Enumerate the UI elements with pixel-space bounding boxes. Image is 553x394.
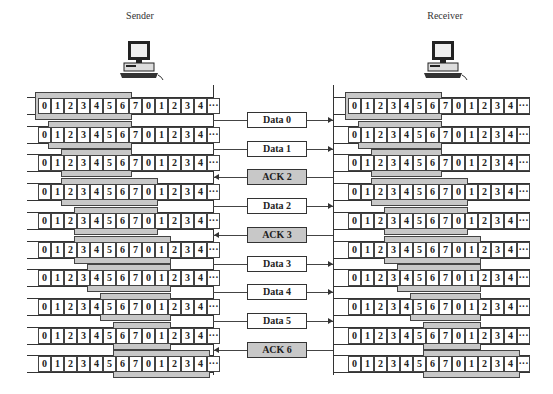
sequence-cell: 2 xyxy=(168,356,181,372)
arrow-right-icon xyxy=(328,146,333,152)
sequence-cell: ··· xyxy=(517,328,530,344)
sequence-cell: 3 xyxy=(491,213,504,229)
sequence-cell: 4 xyxy=(400,184,413,200)
arrow-right-icon xyxy=(328,261,333,267)
sequence-cell: 1 xyxy=(51,184,64,200)
sequence-cell: 0 xyxy=(142,299,155,315)
sequence-cell: 4 xyxy=(194,242,207,258)
sequence-cell: 1 xyxy=(361,299,374,315)
sequence-cell: 5 xyxy=(413,213,426,229)
sequence-cell: 5 xyxy=(103,98,116,114)
sequence-cell: 4 xyxy=(90,328,103,344)
sequence-cell: 1 xyxy=(465,356,478,372)
sequence-cell: 0 xyxy=(348,270,361,286)
sequence-cell: 2 xyxy=(64,356,77,372)
sequence-cell: 3 xyxy=(387,328,400,344)
sequence-cell: 3 xyxy=(387,184,400,200)
sequence-cell: 3 xyxy=(491,155,504,171)
sequence-cell: 6 xyxy=(426,127,439,143)
sequence-cell: 1 xyxy=(465,184,478,200)
sequence-cell: 3 xyxy=(77,184,90,200)
sequence-cell: 3 xyxy=(387,213,400,229)
sequence-cell: 6 xyxy=(116,184,129,200)
sequence-cell: 1 xyxy=(51,213,64,229)
sequence-cell: ··· xyxy=(517,270,530,286)
receiver-label: Receiver xyxy=(405,10,485,21)
sequence-cell: 3 xyxy=(77,98,90,114)
sequence-cell: 7 xyxy=(129,242,142,258)
sequence-cell: 5 xyxy=(103,155,116,171)
sequence-cell: ··· xyxy=(207,127,220,143)
sequence-cell: 7 xyxy=(439,299,452,315)
sequence-cell: ··· xyxy=(207,328,220,344)
sequence-cell: 3 xyxy=(77,328,90,344)
sequence-cell: 2 xyxy=(168,328,181,344)
sequence-cell: 3 xyxy=(181,127,194,143)
sequence-cell: 4 xyxy=(400,328,413,344)
sequence-cell: 0 xyxy=(452,184,465,200)
sequence-cell: 3 xyxy=(387,270,400,286)
sequence-cell: 2 xyxy=(168,127,181,143)
sequence-cell: 2 xyxy=(64,155,77,171)
sequence-cell: 1 xyxy=(51,299,64,315)
sequence-cell: 7 xyxy=(439,155,452,171)
sequence-cell: 0 xyxy=(348,299,361,315)
sequence-cell: 0 xyxy=(452,299,465,315)
sequence-cell: 4 xyxy=(504,127,517,143)
sequence-cell: ··· xyxy=(517,184,530,200)
sequence-cell: 0 xyxy=(38,213,51,229)
sequence-cell: 1 xyxy=(361,242,374,258)
sequence-cell: 0 xyxy=(38,328,51,344)
sequence-cell: 4 xyxy=(504,299,517,315)
sequence-cell: 1 xyxy=(465,242,478,258)
data-frame: Data 1 xyxy=(247,141,307,157)
sequence-cell: 4 xyxy=(504,98,517,114)
sequence-cell: 3 xyxy=(387,98,400,114)
ack-frame: ACK 6 xyxy=(247,342,307,358)
sequence-cell: 0 xyxy=(142,213,155,229)
sequence-cell: 1 xyxy=(155,356,168,372)
sequence-cell: 3 xyxy=(181,98,194,114)
sequence-cell: 2 xyxy=(64,184,77,200)
sequence-cell: 7 xyxy=(439,356,452,372)
sequence-cell: 1 xyxy=(465,270,478,286)
sequence-cell: 2 xyxy=(478,98,491,114)
sequence-cell: 2 xyxy=(374,213,387,229)
sequence-cell: ··· xyxy=(517,299,530,315)
sequence-cell: 1 xyxy=(465,127,478,143)
sequence-cell: 5 xyxy=(413,98,426,114)
sequence-cell: 6 xyxy=(426,184,439,200)
arrow-right-icon xyxy=(328,289,333,295)
sequence-cell: 0 xyxy=(142,270,155,286)
sequence-cell: 0 xyxy=(142,127,155,143)
sequence-cell: 7 xyxy=(129,98,142,114)
sequence-cell: 6 xyxy=(426,299,439,315)
sequence-cell: 0 xyxy=(348,98,361,114)
sequence-cell: 2 xyxy=(64,98,77,114)
sequence-cell: 2 xyxy=(374,328,387,344)
sequence-cell: 7 xyxy=(129,184,142,200)
sequence-cell: 6 xyxy=(116,299,129,315)
sequence-cell: 0 xyxy=(348,328,361,344)
sequence-cell: 7 xyxy=(439,184,452,200)
sequence-cell: 2 xyxy=(478,184,491,200)
sequence-cell: 1 xyxy=(51,155,64,171)
data-frame: Data 5 xyxy=(247,313,307,329)
sequence-cell: 0 xyxy=(142,98,155,114)
sequence-cell: 3 xyxy=(77,213,90,229)
arrow-left-icon xyxy=(214,174,219,180)
sequence-cell: 0 xyxy=(38,155,51,171)
sequence-cell: 0 xyxy=(38,299,51,315)
sequence-cell: 7 xyxy=(439,242,452,258)
sequence-cell: 6 xyxy=(116,213,129,229)
sequence-cell: 5 xyxy=(103,356,116,372)
sequence-cell: 1 xyxy=(465,98,478,114)
sequence-cell: 3 xyxy=(387,127,400,143)
sequence-cell: ··· xyxy=(517,155,530,171)
sequence-cell: 0 xyxy=(142,242,155,258)
sequence-cell: 0 xyxy=(348,127,361,143)
sequence-cell: ··· xyxy=(517,98,530,114)
sequence-cell: 0 xyxy=(452,155,465,171)
sequence-cell: 3 xyxy=(181,299,194,315)
sequence-cell: 7 xyxy=(439,328,452,344)
